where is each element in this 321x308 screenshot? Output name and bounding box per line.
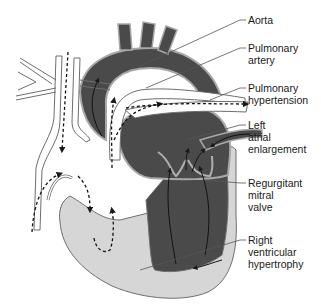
heart-diagram: Aorta Pulmonary artery Pulmonary hyperte… <box>0 0 321 308</box>
label-pulmonary-hypertension: Pulmonary hypertension <box>248 82 308 106</box>
label-line: Left <box>248 119 306 131</box>
label-line: valve <box>248 201 302 213</box>
label-line: hypertrophy <box>248 258 303 270</box>
label-line: Right <box>248 234 303 246</box>
superior-vena-cava <box>34 56 62 230</box>
label-line: artery <box>248 54 298 66</box>
label-aorta: Aorta <box>248 14 273 26</box>
label-line: hypertension <box>248 94 308 106</box>
label-line: ventricular <box>248 246 303 258</box>
label-line: enlargement <box>248 143 306 155</box>
label-regurgitant-mitral-valve: Regurgitant mitral valve <box>248 177 302 213</box>
label-line: Pulmonary <box>248 82 308 94</box>
label-line: Regurgitant <box>248 177 302 189</box>
label-left-atrial-enlargement: Left atrial enlargement <box>248 119 306 155</box>
label-line: mitral <box>248 189 302 201</box>
label-line: Aorta <box>248 14 273 26</box>
label-line: atrial <box>248 131 306 143</box>
label-right-ventricular-hypertrophy: Right ventricular hypertrophy <box>248 234 303 270</box>
label-line: Pulmonary <box>248 42 298 54</box>
label-pulmonary-artery: Pulmonary artery <box>248 42 298 66</box>
